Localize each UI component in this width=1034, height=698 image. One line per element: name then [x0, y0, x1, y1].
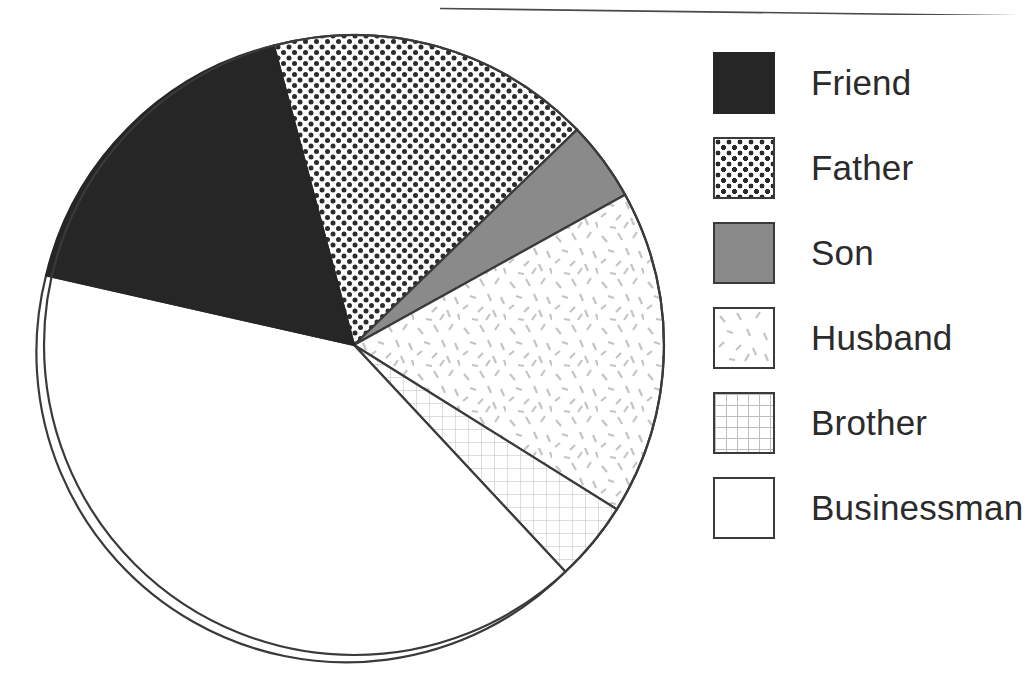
legend-item-businessman[interactable]: Businessman — [713, 465, 1023, 550]
husband-pattern-preview — [715, 309, 773, 367]
legend-item-brother[interactable]: Brother — [713, 380, 1023, 465]
legend-swatch-father — [713, 137, 775, 199]
pie-chart-figure: Friend Father Son — [0, 0, 1034, 698]
legend-item-friend[interactable]: Friend — [713, 40, 1023, 125]
legend-swatch-husband — [713, 307, 775, 369]
legend-label-businessman: Businessman — [811, 490, 1023, 525]
legend: Friend Father Son — [713, 40, 1023, 550]
pie-chart-svg — [0, 0, 700, 698]
legend-swatch-son — [713, 222, 775, 284]
legend-item-husband[interactable]: Husband — [713, 295, 1023, 380]
pie-chart-area — [0, 0, 700, 698]
legend-swatch-friend — [713, 52, 775, 114]
legend-label-brother: Brother — [811, 405, 927, 440]
legend-swatch-brother — [713, 392, 775, 454]
legend-label-husband: Husband — [811, 320, 953, 355]
legend-label-father: Father — [811, 150, 913, 185]
legend-item-son[interactable]: Son — [713, 210, 1023, 295]
legend-label-son: Son — [811, 235, 874, 270]
legend-label-friend: Friend — [811, 65, 911, 100]
legend-item-father[interactable]: Father — [713, 125, 1023, 210]
legend-swatch-businessman — [713, 477, 775, 539]
